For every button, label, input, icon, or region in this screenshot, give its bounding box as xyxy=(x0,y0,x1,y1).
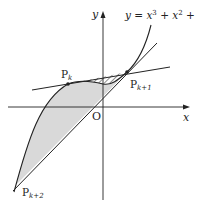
shaded-region xyxy=(16,72,127,185)
y-axis-arrow-icon xyxy=(101,11,106,18)
y-axis-label: y xyxy=(91,8,99,21)
cubic-tangent-diagram: y x O y = x3 + x2 + 1 Pk Pk+1 Pk+2 xyxy=(0,0,198,202)
label-pk: Pk xyxy=(61,68,72,82)
point-pk1 xyxy=(125,70,129,74)
label-pk1: Pk+1 xyxy=(130,78,152,92)
curve-equation: y = x3 + x2 + 1 xyxy=(124,9,198,21)
x-axis-label: x xyxy=(183,111,190,124)
x-axis-arrow-icon xyxy=(183,105,190,110)
label-pk2: Pk+2 xyxy=(22,186,44,200)
point-pk xyxy=(66,82,70,86)
tangent-line-pk1 xyxy=(13,43,157,191)
origin-label: O xyxy=(92,110,101,123)
